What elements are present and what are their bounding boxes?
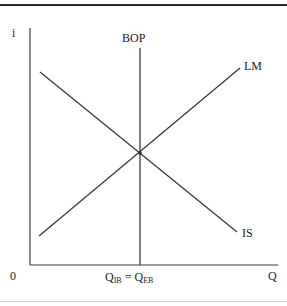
x-axis-label: Q	[268, 270, 277, 282]
equilibrium-first-subscript: IB	[114, 276, 122, 285]
intersection-point-icon	[138, 151, 142, 155]
is-curve-label: IS	[242, 227, 253, 239]
equilibrium-first-symbol: Q	[105, 270, 114, 284]
equilibrium-second-symbol: Q	[134, 270, 143, 284]
y-axis-label: i	[12, 27, 15, 39]
bottom-border-rule	[0, 301, 287, 302]
lm-curve-label: LM	[244, 60, 262, 72]
economics-diagram-figure: i Q 0 BOP LM IS QIB = QEB	[0, 0, 287, 306]
plot-canvas	[0, 0, 287, 306]
equilibrium-operator: =	[125, 270, 132, 284]
origin-label: 0	[10, 270, 16, 282]
bop-curve-label: BOP	[122, 32, 145, 44]
equilibrium-second-subscript: EB	[143, 276, 153, 285]
equilibrium-quantity-label: QIB = QEB	[105, 271, 153, 283]
